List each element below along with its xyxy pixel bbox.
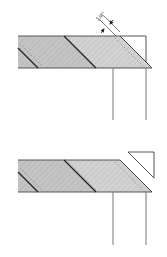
bottom-figure (18, 152, 154, 245)
top-figure: 1/4" (18, 11, 152, 120)
diagram-canvas: 1/4" (0, 0, 167, 257)
dimension-arrow-left-icon (101, 29, 104, 33)
dimension-label: 1/4" (95, 11, 107, 23)
dimension-line-left (100, 20, 116, 36)
diagram-stage: 1/4" (0, 0, 167, 257)
dimension-line-right (104, 16, 120, 32)
